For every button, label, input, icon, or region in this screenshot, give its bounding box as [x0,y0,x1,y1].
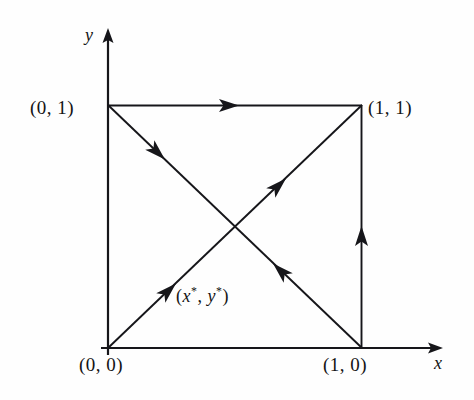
vertex-label-top-left: (0, 1) [30,98,74,117]
fixed-point-comma: , [197,286,202,306]
x-axis-label: x [434,354,443,372]
fixed-point-close-paren: ) [222,286,229,306]
interior-fixed-point-label: (x*, y*) [176,287,229,305]
vertex-label-bottom-left: (0, 0) [79,355,123,374]
fixed-point-x-var: x [183,286,192,306]
fixed-point-y-var: y [207,286,216,306]
unit-square-diagram [0,0,474,400]
vertex-label-top-right: (1, 1) [368,98,412,117]
diagonals-group [108,105,362,348]
figure-canvas: (0, 1) (1, 1) (0, 0) (1, 0) (x*, y*) y x [0,0,474,400]
vertex-label-bottom-right: (1, 0) [323,355,367,374]
y-axis-label: y [85,26,94,44]
